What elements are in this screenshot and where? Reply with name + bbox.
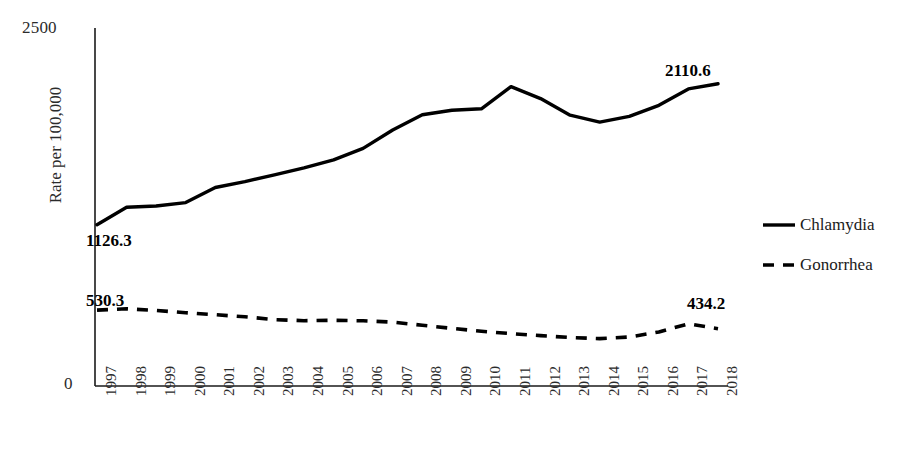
series-line-gonorrhea (97, 309, 718, 339)
legend-label-chlamydia: Chlamydia (800, 215, 875, 235)
y-axis-title: Rate per 100,000 (46, 50, 66, 240)
data-label-gonorrhea-1997: 530.3 (86, 291, 124, 311)
line-chart: Rate per 100,000 2500 0 1997199819992000… (0, 0, 912, 462)
x-axis-tick-2018: 2018 (724, 366, 741, 396)
x-axis-tick-2016: 2016 (665, 366, 682, 396)
data-label-chlamydia-1997: 1126.3 (86, 231, 132, 251)
x-axis-tick-2011: 2011 (517, 367, 534, 396)
x-axis-tick-2001: 2001 (221, 366, 238, 396)
legend-swatch-solid-icon (762, 218, 796, 232)
y-axis-tick-2500: 2500 (22, 18, 57, 38)
x-axis-tick-2012: 2012 (547, 366, 564, 396)
x-axis-tick-1997: 1997 (103, 366, 120, 396)
legend-item-chlamydia: Chlamydia (762, 205, 912, 245)
x-axis-tick-2015: 2015 (635, 366, 652, 396)
x-axis-tick-2008: 2008 (428, 366, 445, 396)
y-axis-tick-0: 0 (64, 374, 73, 394)
x-axis-tick-2009: 2009 (458, 366, 475, 396)
x-axis-tick-2014: 2014 (606, 366, 623, 396)
x-axis-tick-2017: 2017 (694, 366, 711, 396)
series-line-chlamydia (97, 84, 718, 225)
x-axis-tick-2005: 2005 (340, 366, 357, 396)
data-label-chlamydia-2018: 2110.6 (665, 61, 711, 81)
x-axis-tick-1999: 1999 (162, 366, 179, 396)
x-axis-tick-2003: 2003 (280, 366, 297, 396)
x-axis-tick-2013: 2013 (576, 366, 593, 396)
x-axis-tick-2000: 2000 (192, 366, 209, 396)
legend-label-gonorrhea: Gonorrhea (800, 255, 873, 275)
x-axis-tick-2006: 2006 (369, 366, 386, 396)
legend-swatch-dashed-icon (762, 258, 796, 272)
x-axis-tick-2010: 2010 (487, 366, 504, 396)
legend-item-gonorrhea: Gonorrhea (762, 245, 912, 285)
data-label-gonorrhea-2017: 434.2 (687, 294, 725, 314)
x-axis-tick-2002: 2002 (251, 366, 268, 396)
x-axis-tick-1998: 1998 (133, 366, 150, 396)
chart-legend: Chlamydia Gonorrhea (762, 205, 912, 285)
x-axis-tick-2004: 2004 (310, 366, 327, 396)
x-axis-tick-2007: 2007 (399, 366, 416, 396)
